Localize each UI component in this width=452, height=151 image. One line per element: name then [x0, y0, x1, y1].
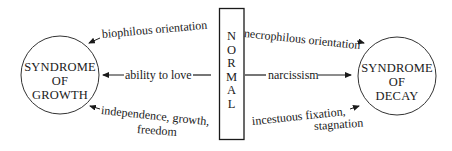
label-freedom: freedom — [137, 123, 178, 139]
normal-letter: M — [219, 71, 244, 85]
arrow-biophilous — [89, 38, 100, 43]
normal-letter: N — [219, 30, 244, 44]
normal-letter: A — [219, 84, 244, 98]
decay-node-label: SYNDROME OF DECAY — [358, 61, 436, 103]
growth-node-label: SYNDROME OF GROWTH — [21, 60, 99, 102]
arrow-incestuous — [350, 106, 359, 109]
normal-label: N O R M A L — [219, 30, 244, 111]
growth-line-1: SYNDROME — [21, 60, 99, 74]
decay-line-2: OF — [358, 75, 436, 89]
growth-line-3: GROWTH — [21, 88, 99, 102]
label-narcissism: narcissism — [268, 69, 319, 82]
decay-line-3: DECAY — [358, 89, 436, 103]
arrow-independence — [90, 106, 100, 109]
normal-letter: L — [219, 98, 244, 112]
normal-letter: R — [219, 57, 244, 71]
decay-line-1: SYNDROME — [358, 61, 436, 75]
label-ability-to-love: ability to love — [125, 69, 192, 82]
normal-letter: O — [219, 44, 244, 58]
growth-line-2: OF — [21, 74, 99, 88]
